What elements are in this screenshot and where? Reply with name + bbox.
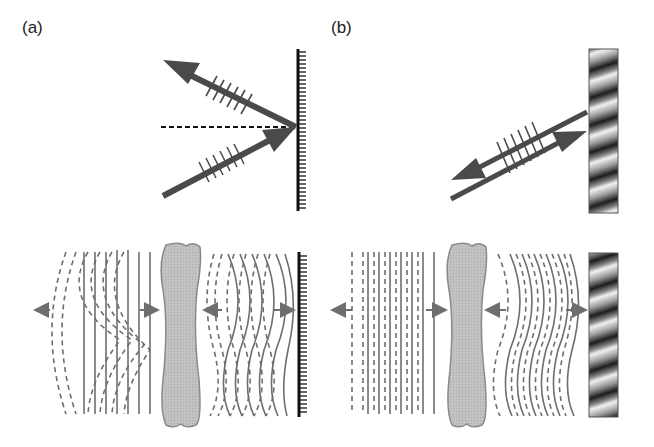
outgoing-distorted-wavefronts	[52, 252, 150, 414]
figure-canvas	[0, 0, 654, 447]
ordinary-mirror-icon	[298, 49, 306, 211]
distorted-wavefronts-dashed	[207, 254, 274, 416]
incoming-plane-wavefronts	[84, 250, 150, 414]
panel-b-top	[451, 49, 618, 213]
outgoing-restored-wavefronts	[352, 252, 418, 414]
phase-conjugate-mirror-icon	[589, 49, 618, 213]
aberrator-blob	[161, 243, 200, 427]
ordinary-mirror-icon	[299, 252, 307, 417]
incident-arrow-icon	[163, 127, 296, 196]
panel-b-bottom	[334, 243, 618, 427]
aberrator-blob	[447, 243, 486, 427]
phase-conjugate-mirror-icon	[589, 253, 618, 417]
incoming-plane-wavefronts	[368, 252, 434, 414]
panel-a-bottom	[37, 243, 307, 427]
distorted-wavefronts-solid	[223, 254, 293, 416]
reflected-arrow-icon	[163, 60, 296, 127]
panel-a-top	[161, 49, 306, 211]
